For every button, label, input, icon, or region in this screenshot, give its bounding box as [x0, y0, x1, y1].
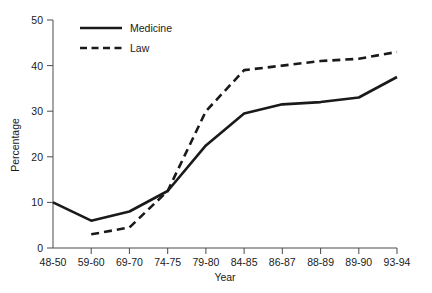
x-tick-label-1: 59-60	[78, 256, 105, 268]
x-tick-label-8: 89-90	[345, 256, 372, 268]
y-axis-title: Percentage	[9, 118, 21, 172]
x-tick-label-4: 79-80	[192, 256, 219, 268]
y-tick-label-30: 30	[31, 105, 43, 117]
x-axis-tick-labels: 48-50 59-60 69-70 74-75 79-80 84-85 86-8…	[40, 256, 411, 268]
chart-legend: Medicine Law	[80, 22, 172, 54]
y-tick-label-20: 20	[31, 151, 43, 163]
x-axis-ticks	[91, 248, 397, 254]
y-tick-label-10: 10	[31, 196, 43, 208]
x-tick-label-9: 93-94	[384, 256, 411, 268]
figure-caption	[0, 284, 432, 293]
y-axis-tick-labels: 50 40 30 20 10 0	[31, 14, 43, 254]
legend-label-medicine: Medicine	[130, 22, 172, 34]
y-axis-ticks	[47, 20, 53, 248]
x-tick-label-0: 48-50	[40, 256, 67, 268]
y-tick-label-50: 50	[31, 14, 43, 26]
legend-label-law: Law	[130, 42, 150, 54]
chart-figure: 50 40 30 20 10 0 Percentage 48-50 59-60 …	[0, 0, 432, 293]
x-tick-label-2: 69-70	[116, 256, 143, 268]
y-tick-label-0: 0	[37, 242, 43, 254]
x-tick-label-5: 84-85	[231, 256, 258, 268]
x-tick-label-3: 74-75	[154, 256, 181, 268]
x-tick-label-6: 86-87	[269, 256, 296, 268]
x-axis-title: Year	[214, 271, 236, 283]
x-tick-label-7: 88-89	[307, 256, 334, 268]
y-tick-label-40: 40	[31, 60, 43, 72]
line-chart-svg: 50 40 30 20 10 0 Percentage 48-50 59-60 …	[0, 0, 432, 293]
series-line-medicine	[53, 77, 397, 221]
